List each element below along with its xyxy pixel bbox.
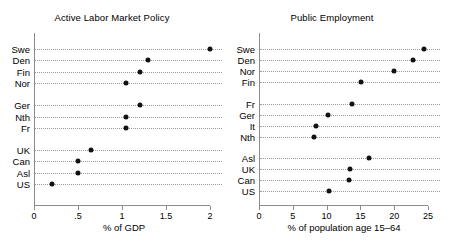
category-label-left-nth: Nth bbox=[0, 111, 30, 122]
data-point-right-swe bbox=[421, 47, 426, 52]
gridline-row bbox=[35, 49, 222, 50]
category-label-left-ger: Ger bbox=[0, 100, 30, 111]
data-point-left-fr bbox=[124, 125, 129, 130]
x-tick-label-left-0: 0 bbox=[31, 211, 36, 221]
x-tick-label-left-4: 2 bbox=[207, 211, 212, 221]
category-label-left-uk: UK bbox=[0, 145, 30, 156]
data-point-left-us bbox=[49, 182, 54, 187]
x-tick-label-right-3: 15 bbox=[355, 211, 365, 221]
chart-panel-active-labor-market-policy: Active Labor Market Policy 0.511.52SweDe… bbox=[0, 0, 226, 246]
x-tick-label-right-5: 25 bbox=[423, 211, 433, 221]
data-point-right-fr bbox=[350, 101, 355, 106]
data-point-left-can bbox=[76, 159, 81, 164]
data-point-right-den bbox=[411, 58, 416, 63]
chart-title-left: Active Labor Market Policy bbox=[12, 12, 212, 23]
gridline-row bbox=[35, 60, 222, 61]
x-tick-left-1 bbox=[78, 206, 79, 210]
gridline-row bbox=[260, 191, 440, 192]
category-label-right-fin: Fin bbox=[226, 77, 255, 88]
x-axis-line-right bbox=[259, 205, 428, 206]
data-point-right-can bbox=[346, 178, 351, 183]
x-tick-label-right-2: 10 bbox=[322, 211, 332, 221]
gridline-row bbox=[260, 82, 440, 83]
x-tick-right-3 bbox=[360, 206, 361, 210]
category-label-left-den: Den bbox=[0, 55, 30, 66]
x-axis-label-left: % of GDP bbox=[103, 222, 145, 233]
data-point-left-ger bbox=[137, 103, 142, 108]
category-label-left-can: Can bbox=[0, 156, 30, 167]
category-label-right-it: It bbox=[226, 120, 255, 131]
x-tick-right-0 bbox=[259, 206, 260, 210]
data-point-left-uk bbox=[89, 148, 94, 153]
category-label-left-swe: Swe bbox=[0, 44, 30, 55]
category-label-right-fr: Fr bbox=[226, 98, 255, 109]
x-tick-label-left-1: .5 bbox=[74, 211, 82, 221]
gridline-row bbox=[35, 184, 222, 185]
x-tick-right-4 bbox=[394, 206, 395, 210]
gridline-row bbox=[260, 158, 440, 159]
data-point-right-it bbox=[314, 123, 319, 128]
category-label-left-nor: Nor bbox=[0, 77, 30, 88]
category-label-right-den: Den bbox=[226, 55, 255, 66]
data-point-left-asl bbox=[76, 170, 81, 175]
chart-panel-public-employment: Public Employment 0510152025SweDenNorFin… bbox=[226, 0, 452, 246]
gridline-row bbox=[260, 49, 440, 50]
x-tick-left-0 bbox=[34, 206, 35, 210]
category-label-left-fin: Fin bbox=[0, 66, 30, 77]
category-label-right-ger: Ger bbox=[226, 109, 255, 120]
category-label-right-can: Can bbox=[226, 175, 255, 186]
category-label-right-us: US bbox=[226, 186, 255, 197]
x-tick-left-4 bbox=[210, 206, 211, 210]
x-tick-left-3 bbox=[166, 206, 167, 210]
gridline-row bbox=[35, 150, 222, 151]
category-label-right-asl: Asl bbox=[226, 153, 255, 164]
x-tick-label-left-2: 1 bbox=[119, 211, 124, 221]
category-label-right-nor: Nor bbox=[226, 66, 255, 77]
x-tick-label-right-1: 5 bbox=[290, 211, 295, 221]
data-point-left-swe bbox=[208, 47, 213, 52]
data-point-left-den bbox=[146, 58, 151, 63]
gridline-row bbox=[260, 137, 440, 138]
data-point-right-fin bbox=[359, 80, 364, 85]
gridline-row bbox=[35, 72, 222, 73]
category-label-right-uk: UK bbox=[226, 164, 255, 175]
category-label-right-swe: Swe bbox=[226, 44, 255, 55]
category-label-left-fr: Fr bbox=[0, 122, 30, 133]
category-label-right-nth: Nth bbox=[226, 131, 255, 142]
x-tick-right-1 bbox=[293, 206, 294, 210]
x-tick-left-2 bbox=[122, 206, 123, 210]
x-tick-label-left-3: 1.5 bbox=[160, 211, 173, 221]
x-axis-label-right: % of population age 15–64 bbox=[287, 222, 400, 233]
gridline-row bbox=[35, 105, 222, 106]
gridline-row bbox=[260, 71, 440, 72]
category-label-left-asl: Asl bbox=[0, 167, 30, 178]
x-tick-label-right-4: 20 bbox=[389, 211, 399, 221]
x-tick-label-right-0: 0 bbox=[256, 211, 261, 221]
data-point-left-nor bbox=[124, 80, 129, 85]
figure-dot-plot-pair: Active Labor Market Policy 0.511.52SweDe… bbox=[0, 0, 452, 246]
chart-title-right: Public Employment bbox=[232, 12, 432, 23]
data-point-right-ger bbox=[325, 112, 330, 117]
data-point-right-uk bbox=[348, 167, 353, 172]
gridline-row bbox=[260, 126, 440, 127]
data-point-right-us bbox=[326, 189, 331, 194]
category-label-left-us: US bbox=[0, 179, 30, 190]
data-point-right-nor bbox=[391, 69, 396, 74]
data-point-left-fin bbox=[137, 69, 142, 74]
gridline-row bbox=[260, 115, 440, 116]
gridline-row bbox=[35, 173, 222, 174]
x-tick-right-2 bbox=[327, 206, 328, 210]
x-tick-right-5 bbox=[428, 206, 429, 210]
data-point-right-nth bbox=[312, 134, 317, 139]
gridline-row bbox=[35, 161, 222, 162]
data-point-left-nth bbox=[124, 114, 129, 119]
y-axis-line-left bbox=[34, 33, 35, 205]
data-point-right-asl bbox=[366, 156, 371, 161]
